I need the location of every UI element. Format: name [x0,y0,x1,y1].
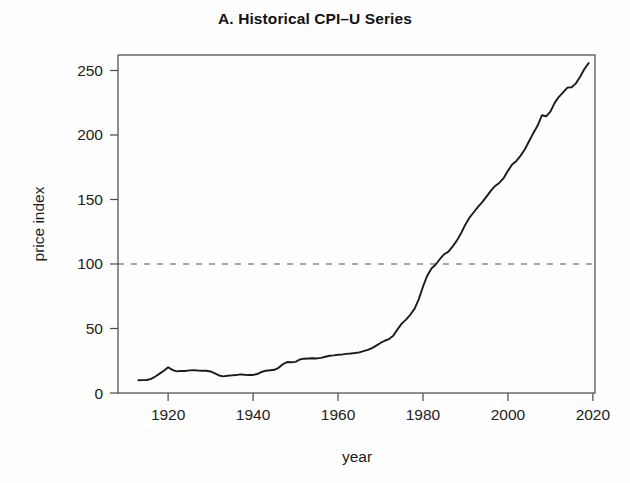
x-tick-label-1940: 1940 [236,406,271,423]
y-tick-label-200: 200 [77,126,103,143]
plot-frame [118,55,595,393]
x-tick-label-1980: 1980 [406,406,441,423]
x-axis-title: year [342,448,372,465]
y-tick-label-100: 100 [77,255,103,272]
y-tick-label-150: 150 [77,191,103,208]
y-tick-label-50: 50 [86,320,104,337]
y-tick-label-0: 0 [94,385,103,402]
figure-panel: A. Historical CPI–U Series 1920194019601… [0,0,630,483]
data-series-layer [138,63,588,380]
chart-plot-area: 192019401960198020002020 050100150200250… [0,0,630,483]
x-tick-label-1920: 1920 [151,406,186,423]
x-tick-label-2020: 2020 [576,406,611,423]
y-axis-title: price index [30,186,47,261]
y-axis-ticks: 050100150200250 [77,62,118,402]
x-axis-ticks: 192019401960198020002020 [151,393,611,423]
axis-frame-layer [118,55,595,393]
x-tick-label-1960: 1960 [321,406,356,423]
y-tick-label-250: 250 [77,62,103,79]
x-tick-label-2000: 2000 [491,406,526,423]
series-line-0 [138,63,588,380]
